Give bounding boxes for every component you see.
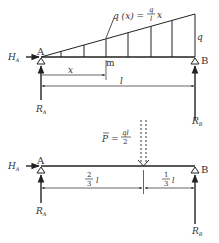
support-b-icon <box>191 58 199 64</box>
load-label-leader <box>106 18 114 38</box>
max-load-label: q <box>197 32 203 42</box>
support-a-icon <box>37 58 45 64</box>
horizontal-reaction-label: HA <box>7 161 20 172</box>
support-a-icon <box>37 167 45 173</box>
support-b-label: B <box>201 164 208 175</box>
load-variable: x <box>157 10 162 20</box>
dimension-right-denominator: 3 <box>164 180 168 188</box>
dimension-left-numerator: 2 <box>87 171 91 179</box>
resultant-label: P = <box>101 134 118 144</box>
dimension-left-variable: l <box>96 176 99 185</box>
top-diagram: q (x) = q l x q A B m HA RA x l <box>7 6 208 120</box>
load-fraction-numerator: q <box>149 6 154 14</box>
bottom-diagram: RB P = ql 2 A B HA RA 2 3 <box>7 116 208 237</box>
point-m-label: m <box>106 58 115 68</box>
support-b-label: B <box>201 55 208 66</box>
resultant-fraction-numerator: ql <box>122 129 129 137</box>
dimension-right-numerator: 1 <box>164 171 168 179</box>
load-fraction-denominator: l <box>150 15 152 23</box>
reaction-a-label: RA <box>35 206 47 217</box>
reaction-a-label: RA <box>35 104 47 115</box>
load-function-label: q (x) = <box>113 11 144 21</box>
support-a-label: A <box>36 46 45 57</box>
dimension-l-label: l <box>120 76 123 86</box>
reaction-b-label: RB <box>191 226 203 237</box>
dimension-left-denominator: 3 <box>87 180 91 188</box>
horizontal-reaction-label: HA <box>7 52 20 63</box>
resultant-arrow <box>138 120 149 166</box>
support-a-label: A <box>36 155 45 166</box>
top-reaction-b-label: RB <box>191 116 203 127</box>
dimension-right-variable: l <box>172 176 175 185</box>
beam-diagram: q (x) = q l x q A B m HA RA x l RB P = <box>0 0 219 243</box>
dimension-x-label: x <box>68 65 73 75</box>
resultant-fraction-denominator: 2 <box>123 138 127 146</box>
support-b-icon <box>191 167 199 173</box>
